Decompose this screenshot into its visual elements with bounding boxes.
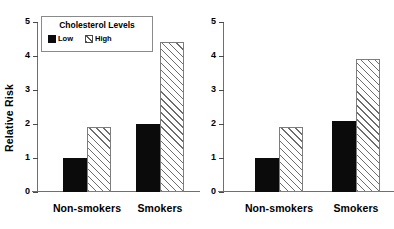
y-tick-label-1: 1	[200, 152, 216, 163]
legend-entry-low: Low	[48, 34, 73, 43]
y-tick-label-0: 0	[14, 186, 30, 197]
y-tick-1: 1	[219, 158, 224, 159]
y-tick-label-3: 3	[14, 84, 30, 95]
y-tick-5: 5	[219, 22, 224, 23]
legend-cholesterol: Cholesterol Levels Low High	[41, 16, 153, 52]
y-tick-0: 0	[33, 192, 38, 193]
plot-area-right: 5 4 3 2 1 0 Non-smokers Smokers	[223, 22, 386, 192]
y-tick-4: 4	[219, 56, 224, 57]
chart-panel-blood-pressure: 5 4 3 2 1 0 Non-smokers Smokers	[197, 0, 394, 229]
y-tick-0: 0	[219, 192, 224, 193]
bar-chart-figure: Relative Risk 5 4 3 2 1 0	[0, 0, 394, 229]
x-tick-label-smokers: Smokers	[118, 202, 202, 214]
y-tick-2: 2	[33, 124, 38, 125]
bar-nonsmokers-low-bp	[255, 158, 279, 192]
y-tick-label-2: 2	[200, 118, 216, 129]
y-tick-label-1: 1	[14, 152, 30, 163]
y-tick-label-4: 4	[14, 50, 30, 61]
y-tick-4: 4	[33, 56, 38, 57]
legend-entry-high: High	[85, 34, 112, 43]
x-tick-label-nonsmokers: Non-smokers	[237, 202, 321, 214]
bar-smokers-low	[136, 124, 160, 192]
x-tick-label-nonsmokers: Non-smokers	[45, 202, 129, 214]
y-tick-label-2: 2	[14, 118, 30, 129]
y-tick-2: 2	[219, 124, 224, 125]
bar-smokers-high	[160, 42, 184, 192]
legend-swatch-hatch-icon	[85, 35, 93, 43]
y-tick-label-5: 5	[200, 16, 216, 27]
bar-nonsmokers-high-bp	[279, 127, 303, 192]
x-tick-label-smokers: Smokers	[314, 202, 394, 214]
bar-nonsmokers-low	[63, 158, 87, 192]
chart-panel-cholesterol: Relative Risk 5 4 3 2 1 0	[0, 0, 197, 229]
legend-label-high: High	[95, 34, 112, 43]
y-tick-3: 3	[33, 90, 38, 91]
bar-smokers-high-bp	[356, 59, 380, 192]
y-tick-3: 3	[219, 90, 224, 91]
y-tick-1: 1	[33, 158, 38, 159]
y-tick-label-3: 3	[200, 84, 216, 95]
bar-nonsmokers-high	[87, 127, 111, 192]
legend-title: Cholesterol Levels	[48, 20, 146, 31]
y-tick-label-0: 0	[200, 186, 216, 197]
y-tick-label-4: 4	[200, 50, 216, 61]
bar-smokers-low-bp	[332, 121, 356, 192]
legend-label-low: Low	[58, 34, 73, 43]
y-tick-5: 5	[33, 22, 38, 23]
y-axis-line	[37, 22, 38, 192]
legend-swatch-solid-icon	[48, 35, 56, 43]
y-axis-line	[223, 22, 224, 192]
y-tick-label-5: 5	[14, 16, 30, 27]
